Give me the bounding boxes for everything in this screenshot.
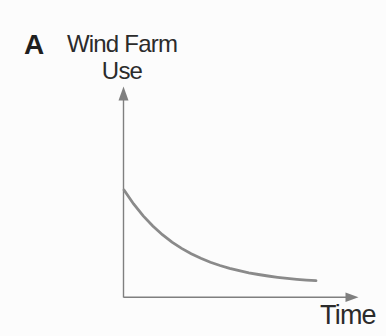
series-curve <box>124 190 316 281</box>
chart-canvas <box>0 0 386 336</box>
x-axis-title: Time <box>320 302 376 329</box>
figure-panel-a: A Wind Farm Use Time <box>0 0 386 336</box>
y-axis-arrowhead-icon <box>119 87 129 101</box>
